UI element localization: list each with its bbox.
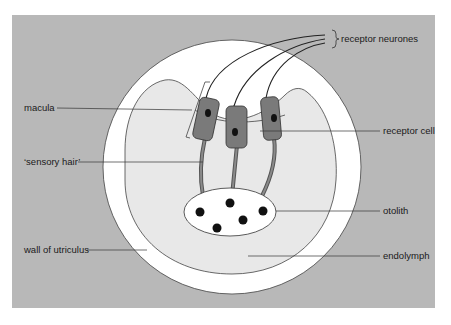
nucleus-3 bbox=[271, 114, 277, 122]
receptor-cell-2 bbox=[226, 106, 247, 148]
label-receptor-neurones: receptor neurones bbox=[341, 33, 418, 44]
label-sensory-hair: ‘sensory hair’ bbox=[24, 156, 80, 167]
nucleus-1 bbox=[205, 109, 211, 117]
nucleus-2 bbox=[232, 128, 238, 136]
label-endolymph: endolymph bbox=[383, 250, 429, 261]
label-macula: macula bbox=[24, 102, 55, 113]
label-receptor-cell: receptor cell bbox=[383, 125, 435, 136]
label-wall-of-utriculus: wall of utriculus bbox=[23, 244, 89, 255]
label-otolith: otolith bbox=[383, 205, 408, 216]
utriculus-diagram: receptor neurones macula receptor cell ‘… bbox=[0, 0, 451, 325]
